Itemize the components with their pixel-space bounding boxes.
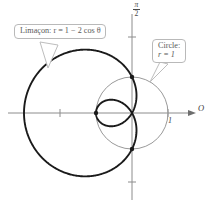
callout-limacon: Limaçon: r = 1 − 2 cos θ [14,24,106,39]
x-axis-arrow-icon [188,110,196,116]
y-axis-label-numerator: π [133,1,140,9]
intersection-dot-left [94,111,98,115]
callout-circle-line2: r = 1 [158,51,180,60]
intersection-dot-bottom [130,147,134,151]
y-axis-label: π 2 [133,1,140,17]
intersection-dot-top [130,75,134,79]
callout-circle: Circle: r = 1 [152,39,186,63]
callout-tails [40,42,168,82]
x-axis-label: O [198,103,204,113]
y-axis-label-denominator: 2 [133,10,140,18]
callout-tail-limacon [40,42,58,68]
polar-plot-figure: Limaçon: r = 1 − 2 cos θ Circle: r = 1 π… [0,0,206,206]
x-axis-tick-label-one: 1 [168,116,172,125]
callout-tail-circle [150,62,168,82]
callout-limacon-text: Limaçon: r = 1 − 2 cos θ [20,27,101,36]
